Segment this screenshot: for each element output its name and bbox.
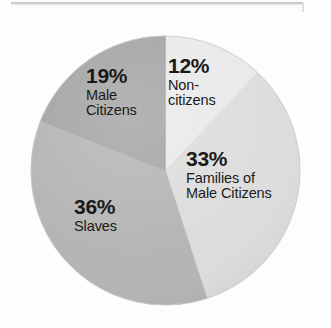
pie-label-non-citizens-percent: 12% (168, 55, 216, 77)
pie-label-families-name-line1: Families of (186, 171, 272, 186)
pie-chart: 12% Non- citizens 33% Families of Male C… (0, 0, 331, 328)
pie-label-slaves-percent: 36% (74, 196, 117, 218)
pie-label-families-name-line2: Male Citizens (186, 186, 272, 201)
pie-label-non-citizens-name-line1: Non- (168, 78, 216, 93)
pie-label-male-citizens-percent: 19% (86, 65, 137, 87)
pie-label-families-percent: 33% (186, 148, 272, 170)
pie-label-male-citizens-name-line1: Male (86, 88, 137, 103)
pie-chart-svg (0, 0, 331, 328)
figure-canvas: 12% Non- citizens 33% Families of Male C… (0, 0, 331, 328)
pie-label-non-citizens: 12% Non- citizens (168, 55, 216, 108)
pie-label-families-of-male-citizens: 33% Families of Male Citizens (186, 148, 272, 201)
pie-label-slaves-name-line1: Slaves (74, 219, 117, 234)
pie-label-male-citizens-name-line2: Citizens (86, 103, 137, 118)
pie-label-slaves: 36% Slaves (74, 196, 117, 234)
pie-label-male-citizens: 19% Male Citizens (86, 65, 137, 118)
pie-label-non-citizens-name-line2: citizens (168, 93, 216, 108)
